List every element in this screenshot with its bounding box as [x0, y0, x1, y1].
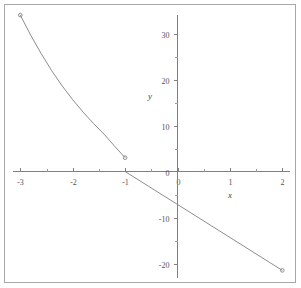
y-tick-label-20: 20 — [162, 77, 170, 86]
x-tick-label-1: 1 — [229, 178, 233, 187]
x-axis-tick-labels: -3-2-1012 — [17, 178, 284, 187]
y-tick-label--10: -10 — [159, 215, 170, 224]
x-tick-label-2: 2 — [281, 178, 285, 187]
x-axis-group: -3-2-1012 x — [13, 168, 290, 201]
y-tick-label--20: -20 — [159, 261, 170, 270]
figure-container: -3-2-1012 x 3020100-10-20 y — [0, 0, 301, 288]
line-end-marker — [281, 269, 285, 273]
y-axis-tick-labels: 3020100-10-20 — [159, 31, 170, 270]
y-axis-title: y — [147, 91, 152, 101]
plot-canvas: -3-2-1012 x 3020100-10-20 y — [0, 0, 301, 288]
data-series-group — [19, 13, 285, 272]
x-axis-title: x — [227, 190, 232, 200]
y-axis-group: 3020100-10-20 y — [147, 15, 178, 278]
x-tick-label--1: -1 — [122, 178, 129, 187]
y-tick-label-0: 0 — [166, 169, 170, 178]
series-line-branch — [125, 172, 282, 271]
series-curve-branch — [20, 15, 125, 158]
y-tick-label-10: 10 — [162, 123, 170, 132]
series-endpoint-markers — [19, 13, 285, 272]
y-tick-label-30: 30 — [162, 31, 170, 40]
x-tick-label--2: -2 — [70, 178, 77, 187]
x-tick-label--3: -3 — [17, 178, 24, 187]
